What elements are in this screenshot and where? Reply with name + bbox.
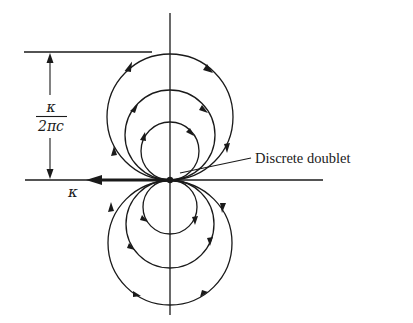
flow-arrow-icon (133, 291, 141, 297)
dimension-denominator: 2πc (37, 118, 64, 134)
flow-arrow-icon (108, 202, 114, 212)
flow-arrow-icon (203, 64, 213, 73)
arrowhead-down-icon (47, 169, 54, 179)
doublet-diagram: κ κ 2πc (0, 0, 413, 323)
flow-arrow-icon (140, 132, 146, 141)
flow-arrow-icon (207, 237, 213, 246)
dimension-numerator: κ (45, 99, 55, 115)
strength-label: κ (67, 183, 78, 201)
flow-arrows-lower (108, 202, 226, 297)
flow-arrow-icon (186, 128, 194, 136)
arrowhead-icon (86, 175, 102, 185)
doublet-label: Discrete doublet (255, 150, 350, 166)
flow-arrow-icon (111, 146, 117, 156)
doublet-point (167, 177, 173, 183)
arrowhead-up-icon (47, 53, 54, 63)
